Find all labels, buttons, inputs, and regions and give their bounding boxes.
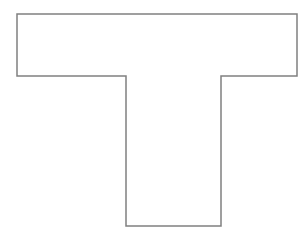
t-shape-figure [0,0,306,237]
drawing-canvas [0,0,306,237]
t-shape-outline [17,14,297,226]
